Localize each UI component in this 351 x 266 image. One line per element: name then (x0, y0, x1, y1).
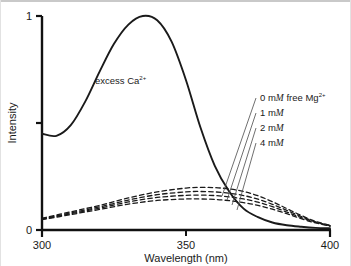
legend-row-2-pre: 2 m (260, 122, 276, 133)
curve-1 (42, 187, 330, 225)
legend-row-1: 1 mM (260, 107, 285, 118)
leader-line-3 (237, 143, 256, 210)
curve-0 (42, 16, 330, 229)
curve-2 (42, 191, 330, 225)
x-tick-label-350: 350 (177, 239, 195, 251)
legend-row-0-post: free Mg (284, 92, 319, 103)
y-axis-title: Intensity (6, 102, 18, 143)
legend-row-2: 2 mM (260, 122, 285, 133)
legend-row-1-pre: 1 m (260, 107, 276, 118)
excess-ca-annotation: excess Ca2+ (95, 75, 147, 86)
y-tick-label-min: 0 (26, 224, 32, 236)
legend-row-3-molar: M (275, 138, 285, 148)
legend-row-0-superscript: 2+ (319, 92, 326, 98)
curve-group (42, 16, 330, 229)
spectrum-plot: 1 0 300 350 400 Wavelength (nm) Intensit… (0, 0, 351, 266)
legend-row-2-molar: M (275, 123, 285, 133)
x-tick-label-300: 300 (33, 239, 51, 251)
excess-ca-superscript: 2+ (139, 75, 146, 81)
excess-ca-text: excess Ca (95, 75, 140, 86)
legend-row-0: 0 mM free Mg2+ (260, 92, 326, 103)
leader-line-2 (232, 128, 256, 205)
x-axis-title: Wavelength (nm) (144, 252, 227, 264)
leader-line-1 (227, 113, 256, 200)
y-tick-label-max: 1 (26, 10, 32, 22)
legend-row-0-pre: 0 m (260, 92, 276, 103)
legend-row-3-pre: 4 m (260, 137, 276, 148)
x-tick-label-400: 400 (321, 239, 339, 251)
figure-container: 1 0 300 350 400 Wavelength (nm) Intensit… (0, 0, 351, 266)
legend-row-3: 4 mM (260, 137, 285, 148)
legend-row-1-molar: M (275, 108, 285, 118)
